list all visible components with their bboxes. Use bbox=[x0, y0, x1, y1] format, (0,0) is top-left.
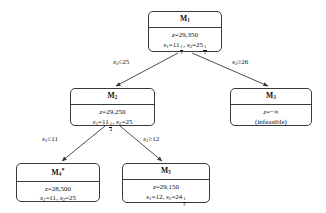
node-m5-separator: , bbox=[162, 193, 164, 201]
node-m2-solution: x1=1114, x2=25 bbox=[74, 118, 151, 133]
node-m4-body: z=28,500 x1=11, x2=25 bbox=[17, 182, 99, 209]
node-m1[interactable]: M1 z=29,350 x1=1112, x2=2512 bbox=[148, 11, 222, 52]
edge-label-m2-m4: x1≤11 bbox=[42, 135, 58, 143]
node-m2-title-index: 2 bbox=[115, 95, 118, 101]
node-m4-z-value: =28,500 bbox=[48, 185, 71, 193]
node-m1-solution: x1=1112, x2=2512 bbox=[152, 41, 218, 56]
node-m2-body: z=29,250 x1=1114, x2=25 bbox=[71, 105, 154, 136]
node-m5[interactable]: M5 z=29,150 x1=12, x2=2412 bbox=[122, 163, 210, 203]
node-m1-separator: , bbox=[183, 41, 185, 49]
node-m5-solution: x1=12, x2=2412 bbox=[126, 193, 206, 208]
node-m3-status: (infeasible) bbox=[234, 118, 308, 127]
node-m1-x1-value: =11 bbox=[169, 41, 180, 49]
node-m3-body: z=−∞ (infeasible) bbox=[231, 105, 311, 130]
node-m1-objective: z=29,350 bbox=[152, 31, 218, 40]
node-m3[interactable]: M3 z=−∞ (infeasible) bbox=[230, 88, 312, 126]
node-m2-z-value: =29,250 bbox=[102, 108, 125, 116]
node-m4-objective: z=28,500 bbox=[20, 185, 96, 194]
node-m3-objective: z=−∞ bbox=[234, 108, 308, 117]
node-m5-x2-value: =24 bbox=[171, 193, 182, 201]
node-m5-body: z=29,150 x1=12, x2=2412 bbox=[123, 180, 209, 211]
node-m5-x2-fraction: 12 bbox=[183, 197, 186, 208]
node-m4[interactable]: M4* z=28,500 x1=11, x2=25 bbox=[16, 163, 100, 202]
node-m2-title: M2 bbox=[71, 89, 154, 105]
node-m5-title: M5 bbox=[123, 164, 209, 180]
node-m5-objective: z=29,150 bbox=[126, 183, 206, 192]
node-m4-x2-value: =25 bbox=[65, 194, 76, 202]
node-m4-solution: x1=11, x2=25 bbox=[20, 194, 96, 205]
node-m1-body: z=29,350 x1=1112, x2=2512 bbox=[149, 28, 221, 59]
node-m3-title: M3 bbox=[231, 89, 311, 105]
node-m4-x1-value: =11 bbox=[45, 194, 56, 202]
node-m2-x2-value: =25 bbox=[121, 118, 132, 126]
node-m3-title-index: 3 bbox=[273, 95, 276, 101]
node-m1-z-value: =29,350 bbox=[175, 31, 198, 39]
node-m1-title-index: 1 bbox=[187, 18, 190, 24]
node-m1-x2-value: =25 bbox=[192, 41, 203, 49]
branch-and-bound-diagram: M1 z=29,350 x1=1112, x2=2512 M2 z=29,250… bbox=[0, 0, 326, 213]
node-m5-x1-value: =12 bbox=[151, 193, 162, 201]
edge-label-m1-m3: x2≥26 bbox=[232, 58, 248, 66]
edge-label-m2-m5: x1≥12 bbox=[143, 135, 159, 143]
node-m2-title-letter: M bbox=[108, 91, 115, 100]
node-m2-objective: z=29,250 bbox=[74, 108, 151, 117]
edge-label-m1-m2: x2≤25 bbox=[113, 58, 129, 66]
node-m5-z-value: =29,150 bbox=[156, 183, 179, 191]
node-m3-z-value: =−∞ bbox=[266, 108, 279, 116]
node-m2[interactable]: M2 z=29,250 x1=1114, x2=25 bbox=[70, 88, 155, 126]
node-m2-separator: , bbox=[112, 118, 114, 126]
node-m5-title-index: 5 bbox=[168, 170, 171, 176]
node-m4-separator: , bbox=[56, 194, 58, 202]
node-m4-title-letter: M bbox=[51, 168, 58, 177]
node-m1-title: M1 bbox=[149, 12, 221, 28]
node-m2-x1-value: =11 bbox=[98, 118, 109, 126]
node-m4-optimal-star: * bbox=[61, 167, 64, 173]
node-m1-x2-fraction: 12 bbox=[203, 45, 206, 56]
node-m4-title: M4* bbox=[17, 164, 99, 182]
